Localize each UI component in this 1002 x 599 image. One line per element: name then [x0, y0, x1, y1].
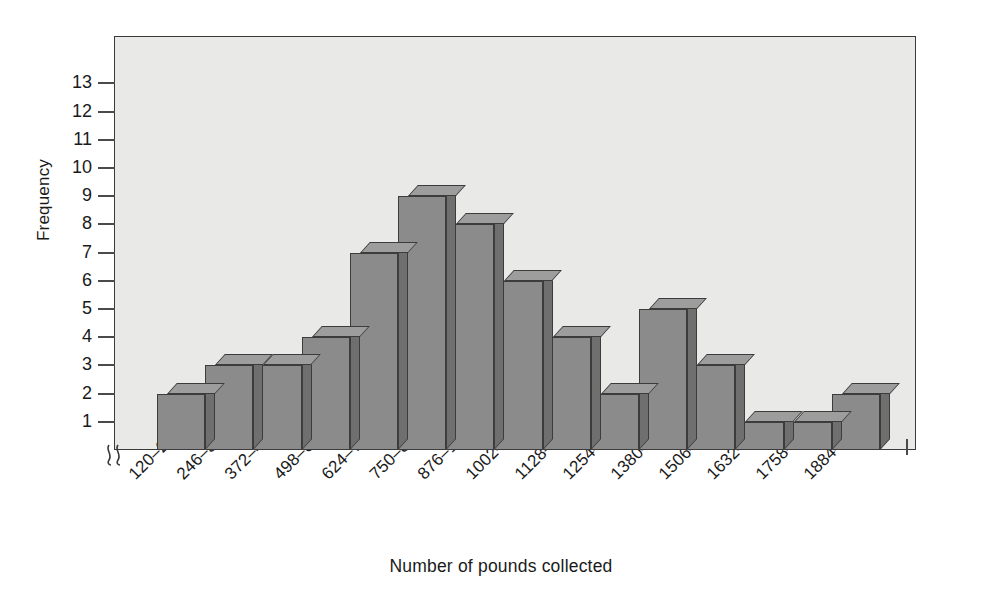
y-tick-mark — [98, 82, 115, 84]
y-tick-mark — [98, 280, 115, 282]
y-tick-mark — [98, 421, 115, 423]
y-tick-label: 8 — [32, 212, 92, 234]
y-tick-mark — [98, 111, 115, 113]
y-tick-mark — [98, 336, 115, 338]
y-tick-label: 6 — [32, 269, 92, 291]
y-tick-label: 5 — [32, 297, 92, 319]
x-axis-title: Number of pounds collected — [0, 556, 1002, 577]
plot-area — [114, 36, 916, 450]
y-tick-label: 2 — [32, 382, 92, 404]
y-tick-mark — [98, 308, 115, 310]
y-tick-label: 4 — [32, 325, 92, 347]
axis-break-icon — [104, 444, 130, 466]
y-tick-mark — [98, 223, 115, 225]
histogram-figure: Frequency 12345678910111213 120–245246–3… — [0, 0, 1002, 599]
y-tick-mark — [98, 167, 115, 169]
y-tick-mark — [98, 364, 115, 366]
y-tick-label: 10 — [32, 156, 92, 178]
y-tick-mark — [98, 393, 115, 395]
y-tick-label: 3 — [32, 353, 92, 375]
y-tick-label: 11 — [32, 128, 92, 150]
y-tick-mark — [98, 195, 115, 197]
x-axis-right-tick — [906, 439, 908, 455]
y-tick-label: 7 — [32, 241, 92, 263]
y-tick-mark — [98, 139, 115, 141]
y-tick-label: 12 — [32, 100, 92, 122]
y-tick-label: 1 — [32, 410, 92, 432]
y-tick-label: 13 — [32, 71, 92, 93]
y-tick-mark — [98, 252, 115, 254]
y-tick-label: 9 — [32, 184, 92, 206]
